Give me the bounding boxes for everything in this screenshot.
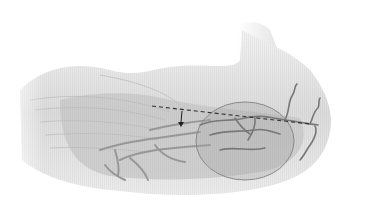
- arm-vessel-illustration: [0, 0, 368, 220]
